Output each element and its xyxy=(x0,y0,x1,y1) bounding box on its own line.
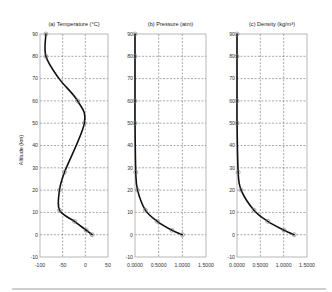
y-tick-label: 30 xyxy=(127,165,133,171)
panel-pressure: (b) Pressure (atm)-100102030405060708090… xyxy=(126,21,215,268)
x-tick-label: 1.5000 xyxy=(198,262,214,268)
y-tick-label: 10 xyxy=(229,209,235,215)
y-tick-label: -10 xyxy=(228,254,236,260)
panel-title: (c) Density (kg/m³) xyxy=(249,21,295,27)
x-tick-label: 0.5000 xyxy=(252,262,268,268)
x-tick-label: 0 xyxy=(84,262,87,268)
y-tick-label: 0 xyxy=(35,232,38,238)
y-tick-label: 90 xyxy=(127,31,133,37)
y-tick-label: 0 xyxy=(130,232,133,238)
x-tick-label: 0.0000 xyxy=(127,262,143,268)
x-tick-label: 0.0000 xyxy=(229,262,245,268)
y-tick-label: 10 xyxy=(127,209,133,215)
y-tick-label: 40 xyxy=(229,142,235,148)
y-tick-label: 80 xyxy=(127,53,133,59)
data-curve xyxy=(135,34,182,235)
y-tick-label: 20 xyxy=(127,187,133,193)
y-tick-label: 40 xyxy=(32,142,38,148)
y-tick-label: 70 xyxy=(229,75,235,81)
panel-title: (b) Pressure (atm) xyxy=(148,21,194,27)
y-tick-label: 70 xyxy=(32,75,38,81)
y-tick-label: 20 xyxy=(229,187,235,193)
data-curve xyxy=(45,34,92,235)
x-tick-label: 1.0000 xyxy=(276,262,292,268)
y-tick-label: 50 xyxy=(32,120,38,126)
y-tick-label: 40 xyxy=(127,142,133,148)
x-tick-label: 1.5000 xyxy=(299,262,315,268)
y-tick-label: 90 xyxy=(32,31,38,37)
x-tick-label: 1.0000 xyxy=(174,262,190,268)
x-tick-label: 0.5000 xyxy=(151,262,167,268)
y-axis-label: Altitude (km) xyxy=(18,135,24,165)
panel-temperature: (a) Temperature (°C)-1001020304050607080… xyxy=(31,21,111,268)
x-tick-label: -100 xyxy=(35,262,45,268)
y-tick-label: 30 xyxy=(229,165,235,171)
y-tick-label: 0 xyxy=(232,232,235,238)
y-tick-label: -10 xyxy=(31,254,39,260)
panel-density: (c) Density (kg/m³)-10010203040506070809… xyxy=(228,21,316,268)
atmosphere-figure: Altitude (km) (a) Temperature (°C)-10010… xyxy=(0,0,332,292)
y-tick-label: 70 xyxy=(127,75,133,81)
y-tick-label: 60 xyxy=(229,98,235,104)
x-tick-label: -50 xyxy=(59,262,67,268)
y-tick-label: -10 xyxy=(126,254,134,260)
y-tick-label: 60 xyxy=(32,98,38,104)
y-tick-label: 60 xyxy=(127,98,133,104)
data-curve xyxy=(237,34,294,235)
panel-title: (a) Temperature (°C) xyxy=(48,21,99,27)
y-tick-label: 80 xyxy=(32,53,38,59)
y-tick-label: 90 xyxy=(229,31,235,37)
x-tick-label: 50 xyxy=(105,262,111,268)
y-tick-label: 50 xyxy=(229,120,235,126)
y-tick-label: 20 xyxy=(32,187,38,193)
y-tick-label: 80 xyxy=(229,53,235,59)
y-tick-label: 30 xyxy=(32,165,38,171)
chart-canvas: Altitude (km) (a) Temperature (°C)-10010… xyxy=(0,0,332,292)
y-tick-label: 10 xyxy=(32,209,38,215)
y-tick-label: 50 xyxy=(127,120,133,126)
